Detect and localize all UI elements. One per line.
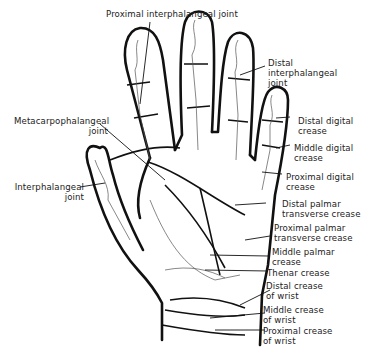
label-proximal-crease-of-wrist: Proximal crease of wrist xyxy=(263,326,333,346)
label-line: of wrist xyxy=(266,291,323,301)
label-line: interphalangeal xyxy=(268,68,337,78)
label-line: joint xyxy=(14,192,84,202)
label-line: transverse crease xyxy=(274,233,353,243)
label-line: Distal palmar xyxy=(282,199,361,209)
label-distal-palmar-transverse-crease: Distal palmar transverse crease xyxy=(282,199,361,219)
label-proximal-interphalangeal-joint: Proximal interphalangeal joint xyxy=(106,9,238,19)
label-line: Metacarpophalangeal xyxy=(14,116,108,126)
label-proximal-digital-crease: Proximal digital crease xyxy=(286,172,354,192)
label-line: of wrist xyxy=(263,315,324,325)
label-line: of wrist xyxy=(263,336,333,346)
label-line: crease xyxy=(298,126,353,136)
label-proximal-palmar-transverse-crease: Proximal palmar transverse crease xyxy=(274,223,353,243)
label-interphalangeal-joint: Interphalangeal joint xyxy=(14,182,84,202)
label-line: Proximal crease xyxy=(263,326,333,336)
label-line: crease xyxy=(294,153,353,163)
label-line: Middle digital xyxy=(294,143,353,153)
label-line: Distal crease xyxy=(266,281,323,291)
label-line: crease xyxy=(272,257,335,267)
label-line: crease xyxy=(286,182,354,192)
label-distal-digital-crease: Distal digital crease xyxy=(298,116,353,136)
leader-lines xyxy=(80,22,290,330)
label-line: Proximal digital xyxy=(286,172,354,182)
label-line: joint xyxy=(14,126,108,136)
label-distal-interphalangeal-joint: Distal interphalangeal joint xyxy=(268,58,337,88)
label-line: Distal digital xyxy=(298,116,353,126)
label-middle-crease-of-wrist: Middle crease of wrist xyxy=(263,305,324,325)
label-line: Middle crease xyxy=(263,305,324,315)
label-line: Distal xyxy=(268,58,337,68)
bones xyxy=(95,20,272,280)
label-line: Proximal palmar xyxy=(274,223,353,233)
label-middle-palmar-crease: Middle palmar crease xyxy=(272,247,335,267)
label-line: Interphalangeal xyxy=(14,182,84,192)
label-distal-crease-of-wrist: Distal crease of wrist xyxy=(266,281,323,301)
label-middle-digital-crease: Middle digital crease xyxy=(294,143,353,163)
label-line: transverse crease xyxy=(282,209,361,219)
label-line: Middle palmar xyxy=(272,247,335,257)
label-thenar-crease: Thenar crease xyxy=(267,268,330,278)
label-metacarpophalangeal-joint: Metacarpophalangeal joint xyxy=(14,116,108,136)
hand-outline xyxy=(87,12,288,346)
label-line: joint xyxy=(268,78,337,88)
